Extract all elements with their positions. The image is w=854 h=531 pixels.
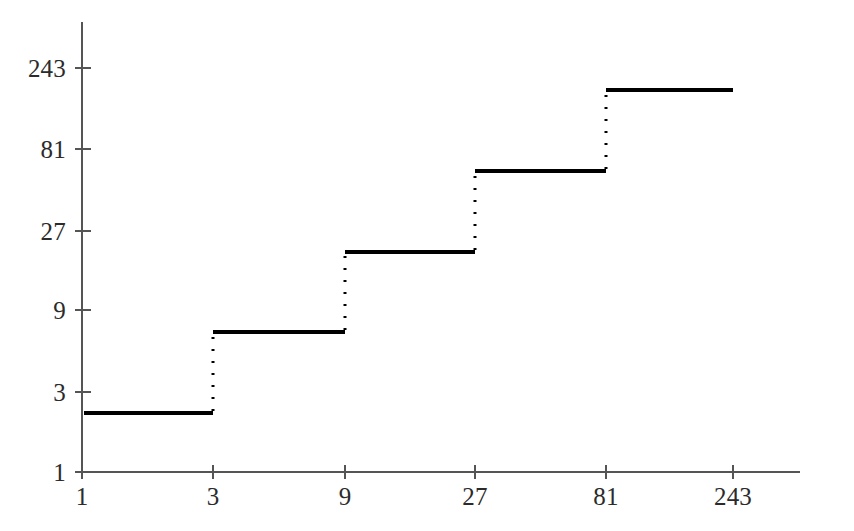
x-tick-label-9: 9 bbox=[339, 484, 352, 509]
plot-area: 243 81 27 9 3 1 1 3 9 27 81 243 bbox=[0, 0, 854, 531]
y-tick-label-1: 1 bbox=[6, 460, 66, 485]
y-tick-label-81: 81 bbox=[6, 137, 66, 162]
step-series bbox=[84, 90, 733, 413]
step-chart-figure: 243 81 27 9 3 1 1 3 9 27 81 243 bbox=[0, 0, 854, 531]
y-tick-label-27: 27 bbox=[6, 219, 66, 244]
x-tick-label-3: 3 bbox=[207, 484, 220, 509]
x-tick-label-243: 243 bbox=[714, 484, 752, 509]
y-tick-label-3: 3 bbox=[6, 380, 66, 405]
y-tick-label-9: 9 bbox=[6, 298, 66, 323]
y-tick-label-243: 243 bbox=[6, 56, 66, 81]
x-tick-label-81: 81 bbox=[593, 484, 618, 509]
chart-canvas bbox=[0, 0, 854, 531]
x-tick-label-27: 27 bbox=[462, 484, 487, 509]
x-tick-label-1: 1 bbox=[76, 484, 89, 509]
